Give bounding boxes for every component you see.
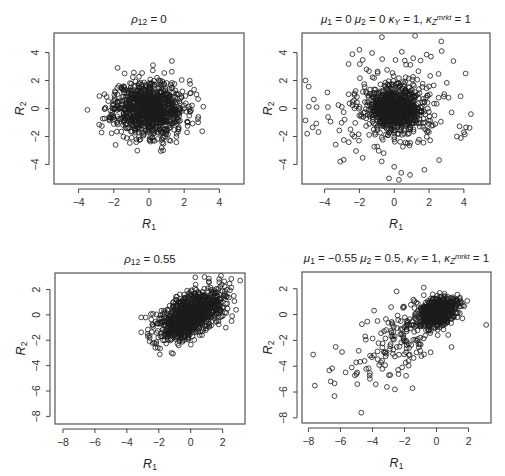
svg-text:4: 4 <box>29 49 41 55</box>
svg-text:−2: −2 <box>29 130 41 142</box>
svg-text:2: 2 <box>220 436 226 448</box>
svg-text:−2: −2 <box>153 436 165 448</box>
svg-text:0: 0 <box>434 435 440 447</box>
svg-text:−4: −4 <box>121 436 133 448</box>
x-axis-label: R1 <box>389 217 403 232</box>
svg-text:2: 2 <box>29 77 41 83</box>
svg-text:4: 4 <box>461 196 467 208</box>
svg-text:0: 0 <box>277 312 289 318</box>
svg-text:4: 4 <box>216 196 222 208</box>
svg-text:−8: −8 <box>57 436 69 448</box>
data-points <box>139 273 243 356</box>
svg-text:0: 0 <box>29 105 41 111</box>
x-axis: −8−6−4−202 <box>302 428 471 447</box>
svg-text:0: 0 <box>277 105 289 111</box>
data-points <box>85 59 206 154</box>
panel-title: μ1 = 0 μ2 = 0 κY = 1, κZmrkt = 1 <box>320 13 471 27</box>
svg-text:−6: −6 <box>89 436 101 448</box>
figure: ρ12 = 0−4−2024R1−4−2024R2 μ1 = 0 μ2 = 0 … <box>0 0 505 476</box>
plot-frame <box>302 272 491 423</box>
svg-text:2: 2 <box>181 196 187 208</box>
svg-text:−4: −4 <box>319 196 331 208</box>
svg-text:0: 0 <box>30 312 42 318</box>
svg-text:0: 0 <box>188 436 194 448</box>
y-axis: −8−6−4−202 <box>30 286 50 422</box>
data-points <box>311 285 489 415</box>
svg-text:−2: −2 <box>353 196 365 208</box>
svg-text:2: 2 <box>277 286 289 292</box>
data-points <box>303 33 473 182</box>
svg-text:−6: −6 <box>334 435 346 447</box>
x-axis-label: R1 <box>143 457 157 472</box>
svg-text:−8: −8 <box>302 435 314 447</box>
svg-text:2: 2 <box>466 435 472 447</box>
svg-text:−8: −8 <box>277 412 289 424</box>
svg-text:2: 2 <box>30 286 42 292</box>
x-axis-label: R1 <box>142 217 156 232</box>
panel-title: ρ12 = 0.55 <box>123 253 176 267</box>
svg-text:2: 2 <box>426 196 432 208</box>
y-axis: −8−6−4−202 <box>277 286 297 424</box>
x-axis: −4−2024 <box>319 189 467 208</box>
svg-text:4: 4 <box>277 49 289 55</box>
svg-text:−2: −2 <box>277 334 289 346</box>
panel-title: ρ12 = 0 <box>130 13 167 27</box>
y-axis-label: R2 <box>13 101 28 115</box>
svg-text:−8: −8 <box>30 410 42 422</box>
svg-text:−2: −2 <box>399 435 411 447</box>
svg-text:−2: −2 <box>30 334 42 346</box>
x-axis: −8−6−4−202 <box>57 429 226 448</box>
svg-text:2: 2 <box>277 77 289 83</box>
svg-text:−6: −6 <box>30 385 42 397</box>
y-axis-label: R2 <box>14 341 29 355</box>
y-axis-label: R2 <box>261 340 276 354</box>
svg-text:0: 0 <box>391 196 397 208</box>
svg-text:−2: −2 <box>277 130 289 142</box>
svg-text:−4: −4 <box>30 359 42 371</box>
svg-text:−4: −4 <box>29 158 41 170</box>
svg-text:0: 0 <box>146 196 152 208</box>
y-axis: −4−2024 <box>29 49 49 170</box>
svg-text:−4: −4 <box>277 158 289 170</box>
scatter-panel-rho-055: ρ12 = 0.55−8−6−4−202R1−8−6−4−202R2 <box>14 253 245 472</box>
x-axis-label: R1 <box>390 456 404 471</box>
svg-text:−2: −2 <box>108 196 120 208</box>
scatter-panel-heavy-tail-shifted: μ1 = −0.55 μ2 = 0.5, κY = 1, κZmrkt = 1−… <box>261 252 491 471</box>
y-axis: −4−2024 <box>277 49 297 170</box>
svg-text:−4: −4 <box>366 435 378 447</box>
svg-text:−4: −4 <box>73 196 85 208</box>
panel-title: μ1 = −0.55 μ2 = 0.5, κY = 1, κZmrkt = 1 <box>303 252 489 266</box>
svg-text:−4: −4 <box>277 360 289 372</box>
y-axis-label: R2 <box>261 101 276 115</box>
svg-text:−6: −6 <box>277 386 289 398</box>
scatter-panel-heavy-tail-centered: μ1 = 0 μ2 = 0 κY = 1, κZmrkt = 1−4−2024R… <box>261 13 490 232</box>
scatter-panel-rho-0: ρ12 = 0−4−2024R1−4−2024R2 <box>13 13 244 232</box>
x-axis: −4−2024 <box>73 189 223 208</box>
